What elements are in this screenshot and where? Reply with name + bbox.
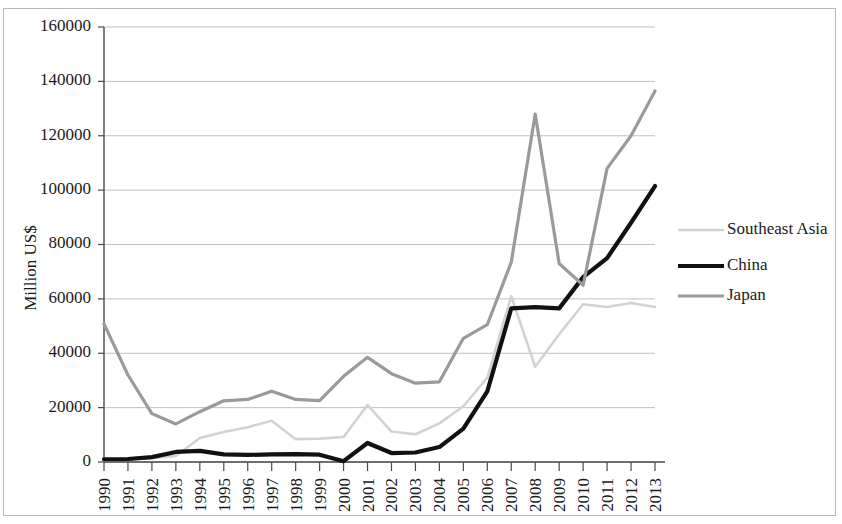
x-tick-label: 2008 (526, 478, 545, 512)
x-tick-label: 1995 (215, 478, 234, 512)
x-tick-label: 1990 (95, 478, 114, 512)
x-tick-label: 2005 (454, 478, 473, 512)
y-tick-label: 100000 (40, 179, 91, 198)
y-axis-tick-marks (98, 27, 104, 462)
y-tick-label: 40000 (49, 342, 92, 361)
x-tick-label: 2003 (406, 478, 425, 512)
x-tick-label: 2011 (598, 478, 617, 511)
x-tick-label: 2009 (550, 478, 569, 512)
y-tick-label: 60000 (49, 288, 92, 307)
x-tick-label: 1998 (287, 478, 306, 512)
chart-figure: 0200004000060000800001000001200001400001… (0, 0, 842, 524)
y-tick-label: 0 (83, 451, 92, 470)
x-tick-label: 1997 (263, 478, 282, 513)
x-tick-label: 2002 (382, 478, 401, 512)
y-tick-label: 140000 (40, 70, 91, 89)
gridlines-group (104, 27, 655, 462)
x-tick-label: 2004 (430, 478, 449, 513)
y-tick-label: 20000 (49, 397, 92, 416)
y-axis-title: Million US$ (21, 225, 40, 311)
series-line (104, 91, 655, 424)
x-tick-label: 2012 (622, 478, 641, 512)
x-tick-label: 1993 (167, 478, 186, 512)
legend-label: Southeast Asia (727, 219, 828, 238)
x-tick-label: 2007 (502, 478, 521, 513)
x-tick-label: 2013 (646, 478, 665, 512)
series-line (104, 296, 655, 460)
x-tick-label: 2006 (478, 478, 497, 512)
legend-label: China (727, 255, 768, 274)
line-chart: 0200004000060000800001000001200001400001… (0, 0, 842, 524)
y-tick-label: 120000 (40, 125, 91, 144)
x-tick-label: 1996 (239, 478, 258, 512)
x-tick-label: 1991 (119, 478, 138, 512)
chart-legend: Southeast AsiaChinaJapan (678, 219, 828, 304)
y-tick-label: 160000 (40, 16, 91, 35)
y-tick-label: 80000 (49, 233, 92, 252)
x-tick-label: 2001 (359, 478, 378, 512)
x-tick-label: 1999 (311, 478, 330, 512)
y-axis-tick-labels: 0200004000060000800001000001200001400001… (40, 16, 91, 470)
x-tick-label: 1994 (191, 478, 210, 513)
x-axis-tick-marks (104, 462, 655, 471)
x-tick-label: 1992 (143, 478, 162, 512)
x-tick-label: 2000 (335, 478, 354, 512)
x-tick-label: 2010 (574, 478, 593, 512)
legend-label: Japan (727, 285, 766, 304)
x-axis-tick-labels: 1990199119921993199419951996199719981999… (95, 478, 665, 513)
series-group (104, 91, 655, 461)
